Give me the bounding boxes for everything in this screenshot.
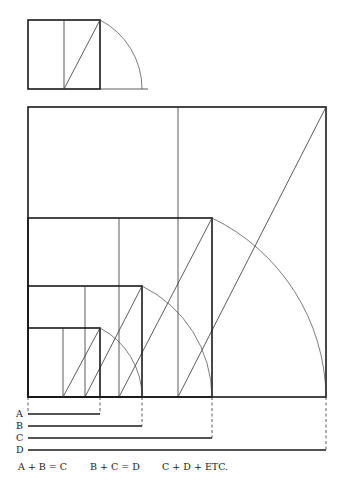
A-square (28, 328, 100, 397)
golden-section-diagram (0, 0, 342, 483)
arc-1 (142, 286, 212, 397)
diagram-canvas: A B C D A + B = C B + C = D C + D + ETC. (0, 0, 342, 483)
small-diagonal (64, 20, 100, 89)
arc-0 (100, 328, 142, 397)
measure-label-b: B (16, 421, 23, 431)
A-square-diagonal (63, 328, 100, 397)
formula-c-plus-d: C + D + ETC. (162, 462, 228, 472)
arc-2 (212, 218, 326, 397)
D-square (28, 107, 326, 397)
measure-label-d: D (16, 445, 24, 455)
C-square-diagonal (119, 218, 212, 397)
B-square-diagonal (85, 286, 142, 397)
small-arc (100, 20, 142, 89)
formula-b-plus-c: B + C = D (90, 462, 140, 472)
measure-label-a: A (16, 409, 23, 419)
D-square-diagonal (178, 107, 326, 397)
measure-label-c: C (16, 433, 23, 443)
formula-a-plus-b: A + B = C (18, 462, 67, 472)
C-square (28, 218, 212, 397)
